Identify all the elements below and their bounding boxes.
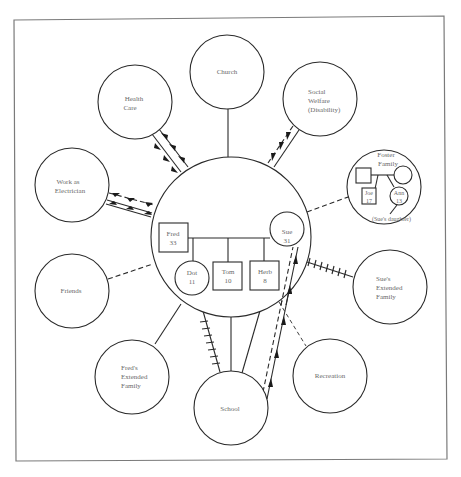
system-label: Electrician <box>55 187 86 195</box>
system-label: Recreation <box>315 372 346 380</box>
system-school: School <box>194 371 268 445</box>
connection-foster-family <box>307 196 351 212</box>
svg-text:Tom: Tom <box>222 268 235 276</box>
svg-text:8: 8 <box>263 277 267 285</box>
member-tom: Tom 10 <box>213 262 242 290</box>
system-label: Church <box>217 68 238 76</box>
member-dot: Dot 11 <box>175 261 209 295</box>
system-recreation: Recreation <box>293 339 367 413</box>
system-foster-family: Foster Family Joe 17 Ann 13 <box>347 150 421 224</box>
svg-text:Sue: Sue <box>282 228 293 236</box>
system-freds-extended-family: Fred's Extended Family <box>95 340 169 414</box>
svg-text:13: 13 <box>396 198 402 204</box>
svg-text:Joe: Joe <box>365 190 373 196</box>
foster-note: (Sue's daughter) <box>372 216 411 223</box>
member-herb: Herb 8 <box>250 261 279 290</box>
system-sues-extended-family: Sue's Extended Family <box>353 250 427 324</box>
svg-text:31: 31 <box>284 237 292 245</box>
svg-text:17: 17 <box>366 198 372 204</box>
connection-friends <box>108 264 153 279</box>
system-label: (Disability) <box>308 106 341 114</box>
system-label: Health <box>125 95 144 103</box>
connection-health-care <box>152 129 188 173</box>
foster-father-square <box>356 168 371 183</box>
system-friends: Friends <box>35 254 109 328</box>
system-label: Family <box>378 160 398 168</box>
system-label: Care <box>123 104 136 112</box>
system-label: Fred's <box>121 364 138 372</box>
svg-text:33: 33 <box>170 239 178 247</box>
family-household: Fred 33 Sue 31 Dot 11 Tom 10 Herb 8 <box>151 157 311 317</box>
system-label: Social <box>308 88 326 96</box>
system-health-care: Health Care <box>98 65 172 139</box>
connection-social-welfare <box>268 126 299 167</box>
system-label: Work as <box>57 178 80 186</box>
system-label: Welfare <box>308 97 330 105</box>
ecomap-diagram: Church Health Care Social Welfare (Disab… <box>0 0 461 477</box>
system-label: Extended <box>376 284 403 292</box>
system-social-welfare: Social Welfare (Disability) <box>283 62 357 136</box>
svg-text:10: 10 <box>225 277 233 285</box>
connection-freds-extended-family <box>155 304 181 344</box>
svg-text:11: 11 <box>189 278 196 286</box>
svg-text:Fred: Fred <box>167 230 180 238</box>
system-label: Family <box>121 382 141 390</box>
system-label: School <box>220 405 240 413</box>
member-fred: Fred 33 <box>159 223 188 252</box>
connection-work <box>106 193 154 217</box>
system-church: Church <box>190 35 264 109</box>
svg-text:Herb: Herb <box>258 268 272 276</box>
system-label: Family <box>376 293 396 301</box>
system-label: Friends <box>61 287 82 295</box>
system-label: Sue's <box>376 275 391 283</box>
system-label: Foster <box>377 151 395 159</box>
svg-text:Ann: Ann <box>394 190 404 196</box>
connection-sues-extended-family <box>307 258 353 278</box>
foster-mother-circle <box>394 166 412 184</box>
system-label: Extended <box>121 373 148 381</box>
system-work: Work as Electrician <box>35 148 109 222</box>
member-sue: Sue 31 <box>270 212 304 246</box>
svg-text:Dot: Dot <box>187 269 198 277</box>
